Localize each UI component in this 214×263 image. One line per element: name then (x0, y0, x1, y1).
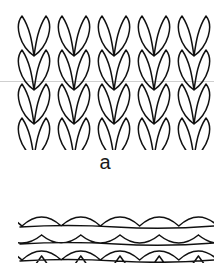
knit-stitch-drawing (14, 14, 214, 150)
knit-stitch-diagram (14, 14, 214, 150)
purl-stitch-bumps (18, 217, 214, 263)
purl-stitch-drawing (18, 212, 214, 263)
knit-stitch-loops (18, 16, 209, 150)
figure-caption-a: a (96, 151, 114, 173)
purl-stitch-diagram (18, 212, 214, 263)
